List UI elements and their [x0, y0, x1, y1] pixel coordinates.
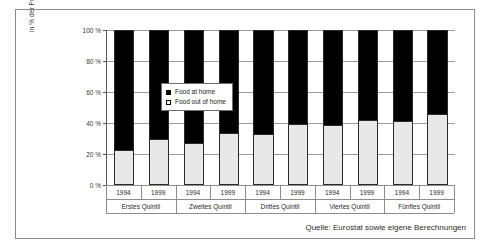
stacked-bar[interactable] [427, 30, 447, 185]
x-tick-label-year: 1994 [176, 185, 211, 199]
stacked-bar[interactable] [288, 30, 308, 185]
x-tick-label-year: 1999 [350, 185, 385, 199]
bar-segment-food-out-of-home [115, 150, 133, 184]
axis-separator [280, 185, 281, 199]
stacked-bar[interactable] [253, 30, 273, 185]
x-group-label: Erstes Quintil [106, 199, 176, 213]
axis-separator [176, 185, 177, 199]
axis-group-separator [315, 199, 316, 213]
chart-legend: Food at homeFood out of home [161, 83, 233, 111]
category-axis: 1994199919941999199419991994199919941999… [106, 185, 454, 225]
y-tick-label: 60 % [86, 89, 101, 96]
y-axis-title: in % der Foodausgaben total [28, 0, 35, 32]
plot-area: 0 %20 %40 %60 %80 %100 % [106, 30, 455, 186]
legend-label: Food out of home [175, 97, 226, 107]
bar-slot [281, 30, 316, 185]
x-group-label: Viertes Quintil [315, 199, 385, 213]
legend-swatch-icon [166, 100, 171, 105]
bar-slot [420, 30, 455, 185]
bar-segment-food-out-of-home [185, 143, 203, 184]
y-tick-label: 100 % [83, 27, 101, 34]
x-tick-label-year: 1994 [315, 185, 350, 199]
bar-segment-food-out-of-home [150, 139, 168, 184]
axis-separator [384, 185, 385, 199]
bar-segment-food-out-of-home [289, 124, 307, 184]
year-label-row: 1994199919941999199419991994199919941999 [106, 185, 454, 199]
stacked-bar[interactable] [323, 30, 343, 185]
axis-edge-separator [454, 199, 455, 213]
axis-separator [245, 185, 246, 199]
bar-slot [351, 30, 386, 185]
stacked-bar[interactable] [393, 30, 413, 185]
stacked-bar[interactable] [114, 30, 134, 185]
bar-slot [316, 30, 351, 185]
axis-group-separator [176, 199, 177, 213]
axis-group-separator [245, 199, 246, 213]
y-tick-label: 0 % [90, 182, 101, 189]
stacked-bar[interactable] [358, 30, 378, 185]
y-tick-label: 80 % [86, 58, 101, 65]
legend-label: Food at home [175, 87, 215, 97]
x-tick-label-year: 1999 [280, 185, 315, 199]
x-tick-label-year: 1994 [384, 185, 419, 199]
legend-item[interactable]: Food at home [166, 87, 226, 97]
legend-item[interactable]: Food out of home [166, 97, 226, 107]
x-tick-label-year: 1994 [245, 185, 280, 199]
bar-segment-food-out-of-home [324, 125, 342, 184]
y-tick-label: 20 % [86, 151, 101, 158]
chart-figure: in % der Foodausgaben total 0 %20 %40 %6… [15, 9, 475, 239]
bar-segment-food-out-of-home [220, 133, 238, 184]
axis-edge-separator [454, 185, 455, 199]
x-tick-label-year: 1999 [141, 185, 176, 199]
axis-separator [210, 185, 211, 199]
legend-swatch-icon [166, 90, 171, 95]
x-group-label: Fünftes Quintil [384, 199, 454, 213]
x-tick-label-year: 1994 [106, 185, 141, 199]
axis-group-separator [384, 199, 385, 213]
x-tick-label-year: 1999 [210, 185, 245, 199]
axis-rule-bottom [106, 213, 454, 214]
axis-separator [315, 185, 316, 199]
x-group-label: Drittes Quintil [245, 199, 315, 213]
axis-separator [419, 185, 420, 199]
bar-segment-food-out-of-home [254, 134, 272, 184]
x-tick-label-year: 1999 [419, 185, 454, 199]
bar-segment-food-out-of-home [394, 121, 412, 184]
bar-segment-food-out-of-home [359, 120, 377, 184]
group-label-row: Erstes QuintilZweites QuintilDrittes Qui… [106, 199, 454, 213]
y-tick-label: 40 % [86, 120, 101, 127]
axis-edge-separator [106, 185, 107, 199]
source-note: Quelle: Eurostat sowie eigene Berechnung… [305, 223, 466, 232]
axis-separator [350, 185, 351, 199]
axis-edge-separator [106, 199, 107, 213]
bar-slot [107, 30, 142, 185]
x-group-label: Zweites Quintil [176, 199, 246, 213]
bar-slot [385, 30, 420, 185]
bar-segment-food-out-of-home [428, 114, 446, 184]
bar-slot [246, 30, 281, 185]
axis-separator [141, 185, 142, 199]
